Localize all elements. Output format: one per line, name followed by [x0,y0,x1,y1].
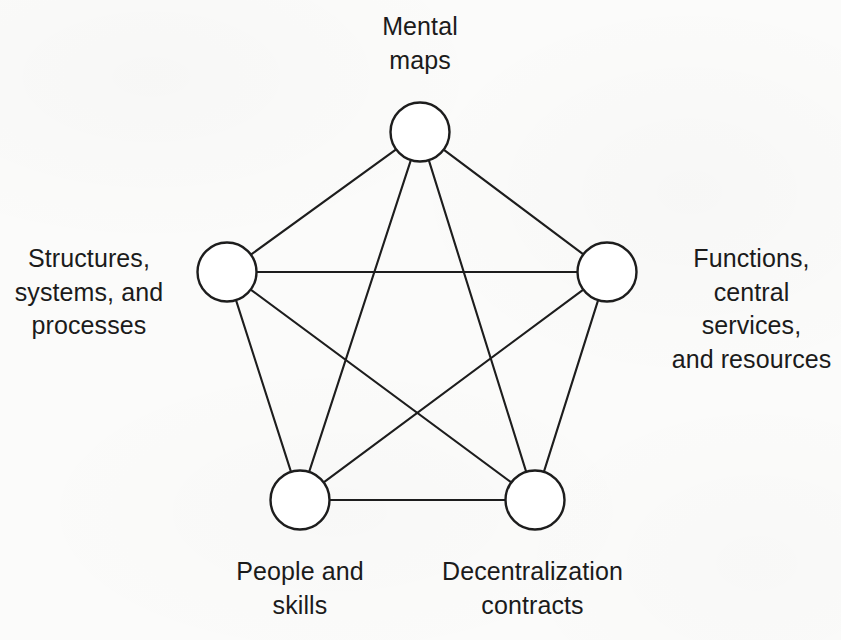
edge-mental-maps-to-functions [444,150,584,255]
edge-functions-to-people [324,290,584,483]
edge-mental-maps-to-decentralization [429,160,526,472]
node-circle-structures[interactable] [198,243,257,302]
edge-functions-to-decentralization [544,300,598,472]
edge-layer [236,149,598,500]
node-label-people: People and skills [205,555,395,622]
node-label-mental-maps: Mental maps [320,10,520,77]
node-layer [198,103,637,530]
edge-structures-to-decentralization [251,290,512,483]
edge-structures-to-people [236,300,291,472]
node-circle-decentralization[interactable] [506,471,565,530]
edge-mental-maps-to-structures [251,149,396,254]
node-circle-mental-maps[interactable] [391,103,450,162]
node-label-functions: Functions, central services, and resourc… [662,242,841,376]
edge-mental-maps-to-people [309,160,411,472]
diagram-canvas: Mental maps Structures, systems, and pro… [0,0,841,640]
node-label-structures: Structures, systems, and processes [0,242,178,343]
node-circle-people[interactable] [271,471,330,530]
node-circle-functions[interactable] [578,243,637,302]
node-label-decentralization: Decentralization contracts [417,555,648,622]
